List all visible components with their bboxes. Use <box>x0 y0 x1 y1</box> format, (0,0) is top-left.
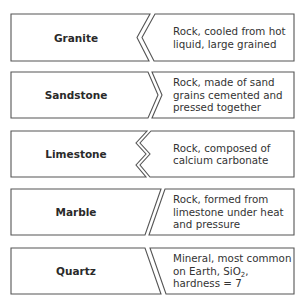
description-line: liquid, large grained <box>173 38 293 51</box>
description-line: hardness = 7 <box>173 277 293 290</box>
description-line: calcium carbonate <box>173 154 293 167</box>
description-line: limestone under heat <box>173 206 293 219</box>
description-sandstone: Rock, made of sand grains cemented and p… <box>173 72 293 118</box>
description-line: Rock, cooled from hot <box>173 25 293 38</box>
description-line: Rock, made of sand <box>173 76 293 89</box>
description-line: pressed together <box>173 101 293 114</box>
description-line: and pressure <box>173 218 293 231</box>
term-granite: Granite <box>11 14 141 61</box>
description-quartz: Mineral, most common on Earth, SiO2, har… <box>173 248 293 294</box>
formula-text: on Earth, SiO <box>173 265 241 277</box>
formula-suffix: , <box>245 265 248 277</box>
term-limestone: Limestone <box>11 131 141 177</box>
description-granite: Rock, cooled from hot liquid, large grai… <box>173 14 293 61</box>
term-sandstone: Sandstone <box>11 72 141 118</box>
description-line-formula: on Earth, SiO2, <box>173 265 293 278</box>
description-limestone: Rock, composed of calcium carbonate <box>173 131 293 177</box>
term-quartz: Quartz <box>11 248 141 294</box>
description-line: Rock, composed of <box>173 142 293 155</box>
description-line: Mineral, most common <box>173 252 293 265</box>
term-marble: Marble <box>11 189 141 235</box>
description-marble: Rock, formed from limestone under heat a… <box>173 189 293 235</box>
description-line: grains cemented and <box>173 89 293 102</box>
description-line: Rock, formed from <box>173 193 293 206</box>
